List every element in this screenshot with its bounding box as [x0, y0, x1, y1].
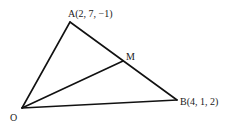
segment-oa: [22, 22, 70, 108]
point-b-label: B(4, 1, 2): [180, 96, 218, 108]
segment-ob: [22, 100, 177, 108]
segment-om: [22, 61, 123, 108]
point-m-label: M: [126, 51, 135, 62]
triangle-diagram: A(2, 7, −1) M B(4, 1, 2) O: [0, 0, 230, 124]
point-a-label: A(2, 7, −1): [68, 8, 113, 20]
point-o-label: O: [10, 112, 17, 123]
